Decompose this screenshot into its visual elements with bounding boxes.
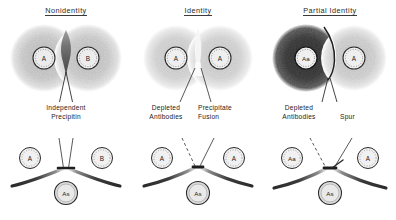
svg-text:As: As — [194, 190, 202, 197]
leader-dashed-depleted — [310, 138, 326, 168]
well-A-left: A — [33, 47, 55, 69]
annotation-line-2: Antibodies — [136, 113, 196, 122]
immunodiffusion-figure: Nonidentity — [0, 0, 396, 220]
svg-text:B: B — [100, 155, 104, 162]
panel-nonidentity: Nonidentity — [0, 0, 132, 220]
diffusion-plate-nonidentity: A B — [0, 18, 132, 102]
annotation-spur: Spur — [340, 113, 390, 122]
precipitin-band-right — [199, 167, 252, 186]
panel-title-nonidentity: Nonidentity — [0, 6, 132, 16]
cross-line-left — [59, 138, 64, 168]
svg-text:A: A — [218, 55, 223, 62]
svg-text:Aa: Aa — [288, 155, 296, 162]
cross-line-right — [69, 138, 74, 168]
annotation-line-1: Spur — [340, 113, 390, 122]
leader-solid-spur — [334, 138, 352, 168]
panel-identity: Identity — [132, 0, 264, 220]
annotation-depleted-antibodies: Depleted Antibodies — [136, 104, 196, 121]
leader-solid-fusion — [200, 138, 214, 166]
panel-title-identity: Identity — [132, 6, 264, 16]
diffusion-plate-identity: A A — [132, 18, 264, 102]
schematic-well-As: As — [187, 182, 210, 205]
svg-text:A: A — [160, 155, 165, 162]
svg-text:As: As — [326, 190, 334, 197]
panel-title-text: Nonidentity — [45, 6, 86, 16]
precipitin-band-right — [332, 168, 386, 188]
schematic-well-B-right: B — [92, 148, 113, 169]
schematic-well-As: As — [319, 182, 342, 205]
svg-text:A: A — [42, 55, 47, 62]
panel-title-text: Partial Identity — [303, 6, 356, 16]
well-A-right: A — [343, 47, 365, 69]
panel-title-partial-identity: Partial Identity — [264, 6, 396, 16]
schematic-identity: A A As — [132, 138, 264, 220]
spur-projection — [332, 160, 343, 168]
schematic-nonidentity: A B As — [0, 138, 132, 220]
annotation-line-1: Depleted — [136, 104, 196, 113]
svg-text:A: A — [174, 55, 179, 62]
diffusion-plate-partial-identity: Aa A — [264, 18, 396, 102]
schematic-well-A-left: A — [20, 148, 41, 169]
schematic-well-Aa-left: Aa — [282, 148, 303, 169]
annotation-line-1: Precipitate — [198, 104, 262, 113]
svg-text:A: A — [366, 155, 371, 162]
annotation-line-1: Depleted — [266, 104, 332, 113]
annotation-precipitate-fusion: Precipitate Fusion — [198, 104, 262, 121]
schematic-well-A-right: A — [358, 148, 379, 169]
svg-text:A: A — [28, 155, 33, 162]
schematic-well-A-left: A — [152, 148, 173, 169]
panel-title-text: Identity — [184, 6, 211, 16]
well-A-right: A — [209, 47, 231, 69]
annotation-line-2: Fusion — [198, 113, 262, 122]
well-A-left: A — [165, 47, 187, 69]
well-B-right: B — [77, 47, 99, 69]
precipitin-band-right — [67, 168, 120, 186]
svg-text:Aa: Aa — [302, 55, 310, 62]
schematic-partial-identity: Aa A As — [264, 138, 396, 220]
svg-text:A: A — [352, 55, 357, 62]
leader-dashed-depleted — [182, 138, 195, 166]
panel-partial-identity: Partial Identity — [264, 0, 396, 220]
schematic-well-A-right: A — [224, 148, 245, 169]
annotation-line-2: Precipitin — [16, 113, 116, 122]
well-Aa-left: Aa — [295, 47, 317, 69]
precipitin-band-left — [274, 168, 328, 188]
precipitin-band-left — [12, 168, 65, 186]
annotation-line-2: Antibodies — [266, 113, 332, 122]
svg-text:As: As — [62, 190, 70, 197]
annotation-independent-precipitin: Independent Precipitin — [16, 104, 116, 121]
annotation-line-1: Independent — [16, 104, 116, 113]
annotation-depleted-antibodies: Depleted Antibodies — [266, 104, 332, 121]
svg-text:A: A — [232, 155, 237, 162]
schematic-well-As: As — [55, 182, 78, 205]
svg-text:B: B — [86, 55, 90, 62]
precipitin-band-left — [144, 167, 197, 186]
